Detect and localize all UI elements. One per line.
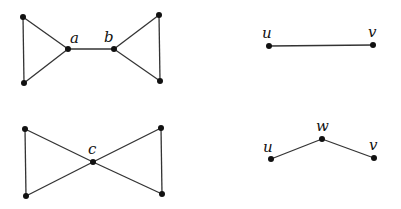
- edge: [25, 129, 93, 162]
- label-u: u: [262, 24, 272, 42]
- vertex-u: [268, 156, 274, 162]
- vertex: [157, 78, 163, 84]
- edge: [114, 49, 160, 81]
- graph-bowtie-cut: c: [22, 125, 165, 199]
- edge-u-v: [269, 45, 373, 46]
- vertex: [156, 12, 162, 18]
- vertex-w: [319, 136, 325, 142]
- edge: [23, 17, 24, 83]
- graph-bowtie-bridge: a b: [20, 12, 163, 86]
- vertex: [159, 191, 165, 197]
- graph-single-edge: u v: [262, 23, 377, 49]
- label-u: u: [263, 138, 273, 156]
- label-w: w: [316, 117, 329, 135]
- graph-path: u w v: [263, 117, 378, 162]
- vertex: [158, 125, 164, 131]
- edge: [23, 17, 68, 49]
- vertex-u: [266, 43, 272, 49]
- vertex: [22, 126, 28, 132]
- vertex: [20, 14, 26, 20]
- edge: [159, 15, 160, 81]
- vertex-b: [111, 46, 117, 52]
- label-v: v: [368, 23, 377, 41]
- graph-figure: a b c u v u w v: [0, 0, 401, 209]
- vertex-c: [90, 159, 96, 165]
- edge: [26, 162, 93, 196]
- edge: [114, 15, 159, 49]
- edge: [24, 49, 68, 83]
- label-a: a: [70, 29, 79, 47]
- edge: [93, 162, 162, 194]
- edge: [93, 128, 161, 162]
- vertex-v: [370, 42, 376, 48]
- label-b: b: [104, 28, 114, 46]
- edge: [161, 128, 162, 194]
- vertex: [23, 193, 29, 199]
- vertex-v: [371, 155, 377, 161]
- vertex: [21, 80, 27, 86]
- label-c: c: [88, 140, 97, 158]
- label-v: v: [369, 136, 378, 154]
- edge: [25, 129, 26, 196]
- edge-w-v: [322, 139, 374, 158]
- edge-u-w: [271, 139, 322, 159]
